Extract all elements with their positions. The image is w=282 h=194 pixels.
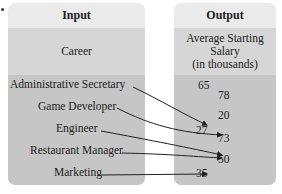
- input-item: Restaurant Manager: [30, 144, 123, 156]
- output-value: 35: [196, 167, 208, 179]
- output-value: 73: [218, 132, 230, 144]
- input-header: Input: [8, 3, 145, 28]
- output-subheader-line: (in thousands): [186, 58, 263, 71]
- output-value: 78: [218, 89, 230, 101]
- input-panel: Input Career Administrative Secretary Ga…: [8, 3, 145, 185]
- output-value: 27: [196, 124, 208, 136]
- input-body: Administrative Secretary Game Developer …: [8, 75, 145, 185]
- input-subheader: Career: [8, 28, 145, 75]
- output-panel: Output Average Starting Salary (in thous…: [174, 3, 276, 185]
- output-subheader-line: Average Starting: [186, 32, 263, 45]
- output-header: Output: [174, 3, 276, 28]
- input-item: Engineer: [56, 122, 98, 134]
- bullet-marker: [1, 8, 4, 11]
- output-subheader: Average Starting Salary (in thousands): [174, 28, 276, 75]
- output-value: 50: [218, 153, 230, 165]
- output-value: 65: [198, 79, 210, 91]
- input-item: Administrative Secretary: [10, 78, 125, 90]
- input-item: Game Developer: [38, 100, 116, 112]
- output-body: 65 78 20 27 73 50 35: [174, 75, 276, 185]
- output-subheader-line: Salary: [186, 45, 263, 58]
- input-item: Marketing: [54, 166, 102, 178]
- output-value: 20: [218, 109, 230, 121]
